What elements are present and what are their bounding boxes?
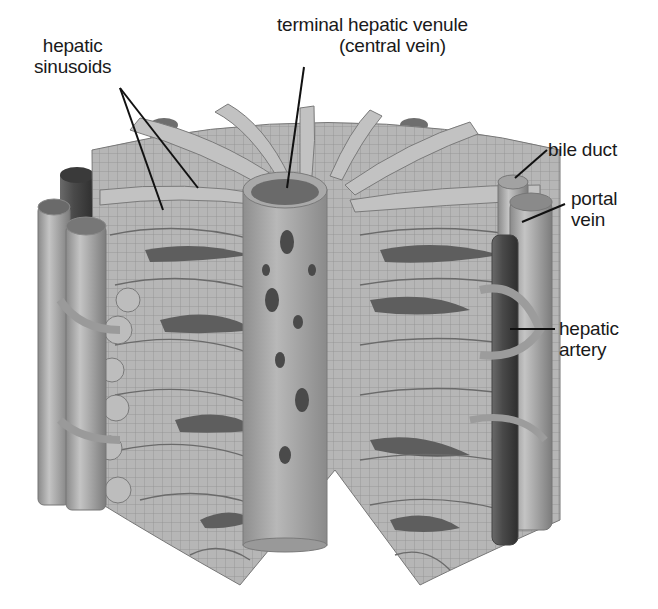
- label-bile-duct-line1: bile duct: [548, 139, 617, 160]
- label-portal-vein: portal vein: [571, 188, 617, 230]
- label-hepatic-sinusoids: hepatic sinusoids: [34, 35, 111, 77]
- label-hepatic-sinusoids-line1: hepatic: [34, 35, 111, 56]
- label-hepatic-artery: hepatic artery: [559, 318, 619, 360]
- label-hepatic-artery-line1: hepatic: [559, 318, 619, 339]
- label-hepatic-sinusoids-line2: sinusoids: [34, 56, 111, 77]
- label-portal-vein-line2: vein: [571, 209, 617, 230]
- central-vein: [243, 172, 327, 552]
- label-bile-duct: bile duct: [548, 139, 617, 160]
- label-central-vein-line2: (central vein): [277, 35, 468, 56]
- liver-lobule-illustration: [0, 0, 658, 609]
- label-hepatic-artery-line2: artery: [559, 339, 619, 360]
- label-central-vein: terminal hepatic venule (central vein): [277, 14, 468, 56]
- label-central-vein-line1: terminal hepatic venule: [277, 14, 468, 35]
- label-portal-vein-line1: portal: [571, 188, 617, 209]
